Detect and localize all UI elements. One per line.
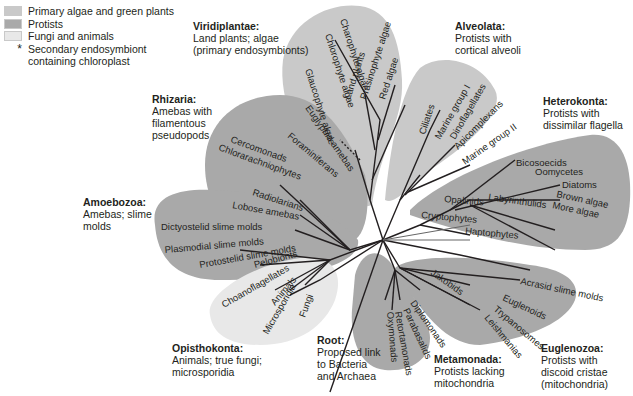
group-label-alveolata: Alveolata: Protists with cortical alveol… [455,20,521,56]
legend-item-secondary-endosymbiont: * Secondary endosymbiont [4,43,174,56]
swatch-fungi-animals [4,31,22,41]
taxon-oomycetes: Oomycetes [535,166,583,177]
group-label-metamonada: Metamonada: Protists lacking mitochondri… [434,353,505,389]
swatch-protists [4,19,22,29]
group-label-amoebozoa: Amoebozoa: Amebas; slime molds [83,196,152,232]
swatch-primary-algae [4,6,22,16]
taxon-dictyostelid: Dictyostelid slime molds [161,221,263,232]
group-label-heterokonta: Heterokonta: Protists with dissimilar fl… [543,95,623,131]
group-label-euglenozoa: Euglenozoa: Protists with discoid crista… [541,342,608,390]
group-label-root: Root: Proposed link to Bacteria and Arch… [317,334,381,382]
star-icon: * [4,43,22,55]
taxon-diatoms: Diatoms [562,179,597,190]
group-label-opisthokonta: Opisthokonta: Animals; true fungi; micro… [172,342,262,378]
legend-item-primary-algae: Primary algae and green plants [4,5,174,18]
group-label-rhizaria: Rhizaria: Amebas with filamentous pseudo… [152,93,212,141]
group-label-viridiplantae: Viridiplantae: Land plants; algae (prima… [193,20,309,56]
legend-item-fungi-animals: Fungi and animals [4,30,174,43]
legend-item-protists: Protists [4,18,174,31]
legend: Primary algae and green plants Protists … [4,5,174,67]
